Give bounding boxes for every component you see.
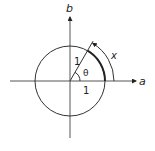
horizontal-axis-label: a — [139, 75, 146, 88]
arc-length-indicator — [93, 43, 114, 81]
radius-label: 1 — [74, 56, 80, 67]
vertical-axis-label: b — [66, 2, 73, 15]
base-label: 1 — [83, 85, 89, 96]
unit-circle-diagram: b a 1 θ 1 x — [0, 0, 155, 151]
angle-arc — [75, 72, 80, 81]
angle-label: θ — [83, 68, 89, 78]
arc-length-label: x — [110, 50, 117, 61]
highlighted-arc — [88, 51, 106, 81]
